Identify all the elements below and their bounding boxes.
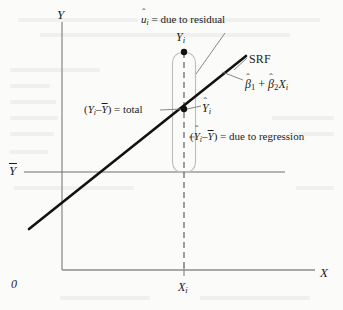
figure-canvas (0, 0, 343, 310)
origin-label: 0 (11, 278, 17, 290)
overbar-glyph (207, 130, 214, 131)
x-axis-label: X (320, 266, 328, 279)
fitted-point-yhat (181, 106, 187, 112)
x-tick-label-xi: Xi (178, 281, 188, 295)
regression-decomposition-figure: Y X 0 Y Xi ̂ui = due to residual Yi SRF … (0, 0, 343, 310)
residual-leader-line (196, 33, 225, 74)
observed-point-label: Yi (176, 31, 185, 45)
overbar-glyph (101, 103, 108, 104)
srf-equation-leader-line (222, 72, 243, 80)
regression-deviation-annotation: (̂Yi–Y) = due to regression (190, 131, 304, 144)
y-mean-label: Y (9, 164, 16, 177)
residual-annotation: ̂ui = due to residual (141, 14, 225, 27)
fitted-value-label: ̂Yi (202, 102, 211, 116)
y-axis-label: Y (57, 8, 64, 21)
srf-label: SRF (249, 53, 271, 65)
overbar-glyph (9, 163, 17, 164)
total-deviation-annotation: (Yi–Y) = total (84, 104, 143, 117)
yhat-leader-line (187, 106, 201, 109)
observed-point-yi (181, 49, 187, 55)
srf-equation-label: ̂β1 + ̂β2Xi (245, 78, 288, 92)
